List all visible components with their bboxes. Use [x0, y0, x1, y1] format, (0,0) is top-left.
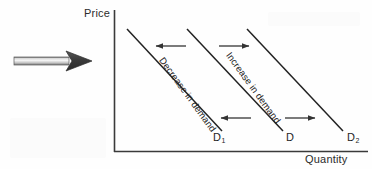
y-axis-label-price: Price: [84, 7, 110, 19]
demand-curve-d2: [247, 29, 343, 131]
pointer-block-arrow-icon: [14, 51, 92, 71]
curve-label-d1-text: D: [213, 131, 221, 143]
curve-label-d2-text: D: [347, 131, 355, 143]
curve-label-d2: D2: [347, 131, 359, 143]
curve-label-d: D: [286, 131, 294, 143]
curve-label-d1-subscript: 1: [221, 137, 225, 144]
x-axis-label-quantity: Quantity: [305, 153, 348, 165]
curve-label-d2-subscript: 2: [355, 137, 359, 144]
curve-label-d-text: D: [286, 131, 294, 143]
curve-label-d1: D1: [213, 131, 225, 143]
curve-label-d-subscript: [294, 137, 295, 144]
demand-shift-diagram: Price Quantity D1 D D2 Decrease in deman…: [0, 0, 372, 169]
demand-curves-group: [127, 29, 343, 131]
